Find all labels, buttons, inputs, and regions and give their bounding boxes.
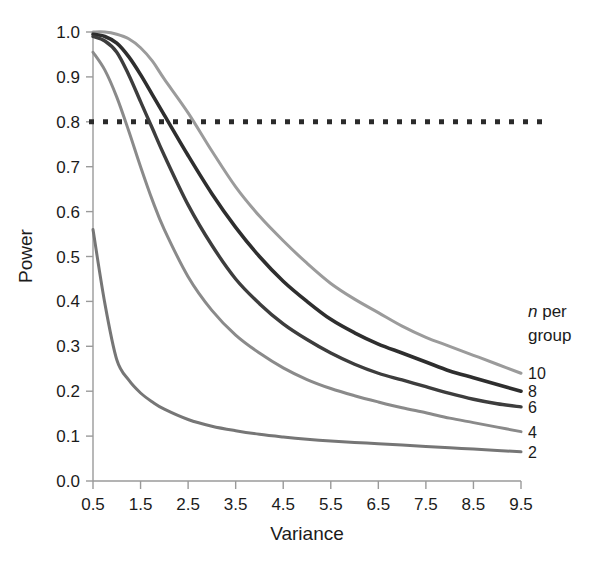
x-tick-label-7.5: 7.5 [414, 495, 438, 514]
x-tick-label-1.5: 1.5 [129, 495, 153, 514]
y-axis-title: Power [15, 228, 36, 283]
legend-title-line2: group [528, 326, 571, 345]
y-tick-label-0.2: 0.2 [56, 382, 80, 401]
x-axis-title: Variance [270, 523, 344, 544]
legend-label-n-4: 4 [528, 424, 537, 441]
y-tick-label-0.6: 0.6 [56, 203, 80, 222]
y-tick-label-1.0: 1.0 [56, 23, 80, 42]
y-tick-label-0.4: 0.4 [56, 292, 80, 311]
legend-label-n-10: 10 [528, 365, 546, 382]
y-tick-label-0.3: 0.3 [56, 337, 80, 356]
legend-label-n-6: 6 [528, 399, 537, 416]
y-tick-label-0.5: 0.5 [56, 248, 80, 267]
y-tick-label-0.1: 0.1 [56, 427, 80, 446]
y-tick-label-0.0: 0.0 [56, 472, 80, 491]
chart-canvas: 0.00.10.20.30.40.50.60.70.80.91.0 0.51.5… [0, 0, 591, 581]
x-tick-label-9.5: 9.5 [509, 495, 533, 514]
legend-title-rest: per [537, 302, 567, 321]
legend-title-italic-n: n [528, 302, 537, 321]
y-tick-label-0.7: 0.7 [56, 158, 80, 177]
x-tick-label-0.5: 0.5 [81, 495, 105, 514]
x-tick-label-3.5: 3.5 [224, 495, 248, 514]
legend-label-n-8: 8 [528, 383, 537, 400]
x-tick-label-4.5: 4.5 [271, 495, 295, 514]
legend-label-n-2: 2 [528, 444, 537, 461]
x-tick-label-6.5: 6.5 [367, 495, 391, 514]
power-curve-chart: 0.00.10.20.30.40.50.60.70.80.91.0 0.51.5… [0, 0, 591, 581]
x-tick-label-5.5: 5.5 [319, 495, 343, 514]
y-tick-label-0.9: 0.9 [56, 68, 80, 87]
legend-title-line1: n per [528, 302, 567, 321]
x-tick-label-2.5: 2.5 [176, 495, 200, 514]
y-tick-label-0.8: 0.8 [56, 113, 80, 132]
x-tick-label-8.5: 8.5 [462, 495, 486, 514]
